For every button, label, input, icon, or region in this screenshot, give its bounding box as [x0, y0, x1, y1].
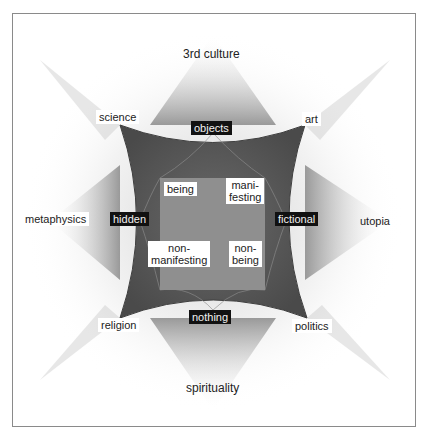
label-non-manifesting-line2: manifesting: [151, 254, 207, 266]
label-hidden: hidden: [110, 212, 149, 226]
label-metaphysics: metaphysics: [22, 212, 89, 226]
label-3rd-culture: 3rd culture: [180, 47, 243, 61]
label-non-being-line1: non-: [232, 242, 259, 254]
label-non-being: non- being: [229, 241, 262, 267]
label-manifesting-line2: festing: [229, 191, 261, 203]
label-fictional: fictional: [275, 212, 318, 226]
label-non-being-line2: being: [232, 254, 259, 266]
label-politics: politics: [292, 319, 332, 333]
label-objects: objects: [191, 121, 232, 135]
label-being: being: [164, 182, 197, 196]
label-utopia: utopia: [357, 214, 393, 228]
label-non-manifesting-line1: non-: [151, 242, 207, 254]
label-manifesting-line1: mani-: [229, 179, 261, 191]
label-non-manifesting: non- manifesting: [148, 241, 210, 267]
label-spirituality: spirituality: [183, 381, 242, 395]
label-art: art: [302, 112, 321, 126]
label-manifesting: mani- festing: [226, 178, 264, 204]
label-nothing: nothing: [189, 310, 231, 324]
label-religion: religion: [98, 318, 139, 332]
label-science: science: [96, 110, 139, 124]
